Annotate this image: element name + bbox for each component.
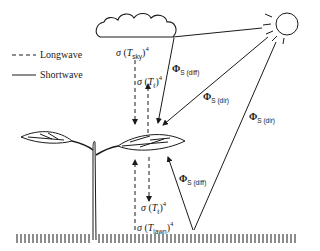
phi-diffuse-sky-label: ΦS (diff)	[172, 64, 199, 78]
sun-icon	[263, 13, 298, 44]
legend-longwave-label: Longwave	[40, 50, 82, 60]
shortwave-sun-to-cloud	[173, 28, 262, 37]
shortwave-direct-ground-line	[194, 42, 276, 230]
legend-shortwave-label: Shortwave	[40, 70, 83, 80]
phi-direct-ground-label: ΦS (dir)	[249, 112, 275, 126]
leaf-emission-up-label: σ (Tℓ)4	[137, 73, 162, 91]
phi-diffuse-ground-label: ΦS (diff)	[179, 174, 206, 188]
phi-direct-leaf-label: ΦS (dir)	[203, 92, 229, 106]
leaf-emission-down-label: σ (Tℓ)4	[141, 199, 166, 217]
cloud-icon	[96, 14, 176, 38]
sky-emission-label: σ (Tsky)4	[116, 44, 149, 62]
lawn-emission-label: σ (Tlawn)4	[137, 219, 173, 237]
